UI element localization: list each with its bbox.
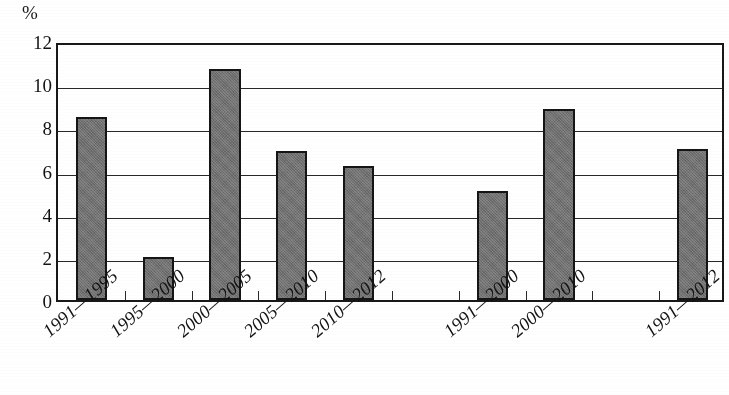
- y-axis-tick-8: 8: [4, 118, 52, 140]
- x-axis-tick-3: [258, 291, 259, 300]
- x-axis-tick-5: [392, 291, 393, 300]
- gridline-6: [58, 175, 722, 176]
- plot-area: [56, 43, 724, 302]
- x-axis-tick-1: [125, 291, 126, 300]
- gridline-4: [58, 218, 722, 219]
- bar-3[interactable]: [209, 69, 240, 300]
- bar-chart: % 121086420 1991—19951995—20002000—20052…: [0, 0, 729, 395]
- y-axis-tick-2: 2: [4, 248, 52, 270]
- x-axis-tick-8: [592, 291, 593, 300]
- y-axis-tick-10: 10: [4, 75, 52, 97]
- x-axis-tick-9: [659, 291, 660, 300]
- x-axis-tick-6: [459, 291, 460, 300]
- y-axis-tick-6: 6: [4, 162, 52, 184]
- x-axis-category-labels: 1991—19951995—20002000—20052005—20102010…: [0, 302, 729, 395]
- gridline-10: [58, 88, 722, 89]
- y-axis-tick-4: 4: [4, 205, 52, 227]
- x-axis-tick-4: [325, 291, 326, 300]
- plot-inner: [58, 45, 722, 300]
- y-axis-tick-12: 12: [4, 32, 52, 54]
- x-axis-tick-2: [192, 291, 193, 300]
- x-axis-tick-7: [526, 291, 527, 300]
- gridline-8: [58, 131, 722, 132]
